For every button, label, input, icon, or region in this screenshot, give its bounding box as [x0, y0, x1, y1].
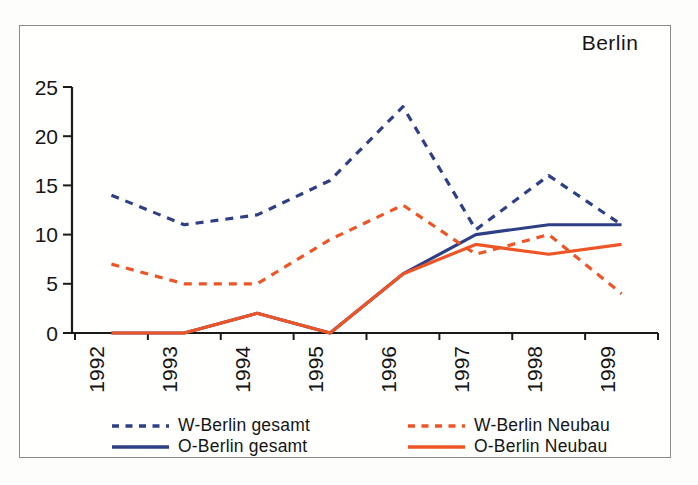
x-tick-label: 1994 [231, 346, 254, 393]
y-tick-label: 0 [46, 322, 58, 345]
y-tick-label: 25 [35, 76, 58, 99]
legend-swatch-dashed [408, 421, 465, 431]
legend-item: O-Berlin gesamt [112, 437, 408, 456]
x-tick-label: 1999 [596, 346, 619, 393]
y-tick-label: 10 [35, 223, 58, 246]
series-o-berlin-neubau [111, 244, 621, 333]
axes [72, 87, 658, 333]
x-tick-label: 1996 [377, 346, 400, 393]
legend-swatch-dashed [112, 421, 169, 431]
legend-item: W-Berlin Neubau [408, 416, 610, 435]
y-tick-label: 5 [46, 272, 58, 295]
x-tick-label: 1993 [158, 346, 181, 393]
legend-item: O-Berlin Neubau [408, 437, 610, 456]
plot-area: 0510152025199219931994199519961997199819… [0, 0, 698, 485]
legend-swatch-solid [112, 442, 169, 452]
legend-label: O-Berlin gesamt [178, 436, 307, 457]
series-w-berlin-gesamt [111, 107, 621, 230]
legend-item: W-Berlin gesamt [112, 416, 408, 435]
legend-swatch-solid [408, 442, 465, 452]
y-tick-label: 15 [35, 174, 58, 197]
legend-label: W-Berlin Neubau [474, 415, 610, 436]
series-w-berlin-neubau [111, 205, 621, 294]
x-tick-label: 1992 [85, 346, 108, 393]
chart-figure: Berlin 051015202519921993199419951996199… [0, 0, 698, 485]
series-o-berlin-gesamt [111, 225, 621, 333]
x-tick-label: 1995 [304, 346, 327, 393]
x-tick-label: 1998 [523, 346, 546, 393]
legend: W-Berlin gesamtW-Berlin NeubauO-Berlin g… [112, 416, 610, 456]
legend-label: W-Berlin gesamt [178, 415, 310, 436]
x-tick-label: 1997 [450, 346, 473, 393]
y-tick-label: 20 [35, 125, 58, 148]
legend-label: O-Berlin Neubau [474, 436, 607, 457]
